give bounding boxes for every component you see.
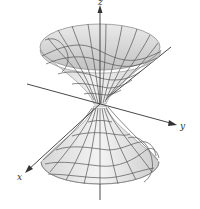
hyperboloid-diagram: y x z [0,0,200,209]
y-axis-label: y [179,121,186,131]
x-axis-label: x [17,172,22,182]
z-axis-label: z [97,0,103,7]
y-axis-arrowhead [168,120,177,126]
